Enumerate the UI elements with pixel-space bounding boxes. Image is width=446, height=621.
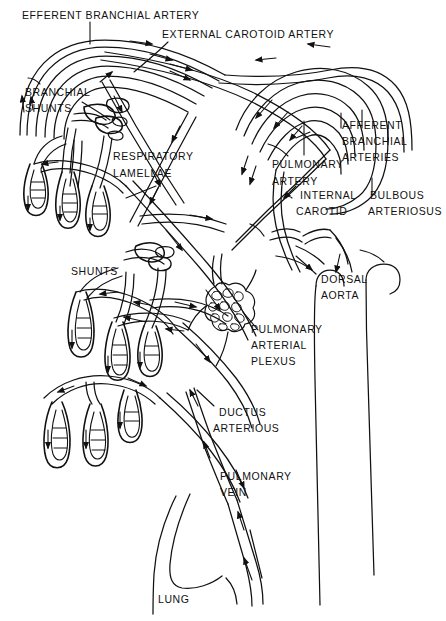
label-pulmonary-arterial-plexus-line2: ARTERIAL [251, 338, 307, 352]
respiratory-lamellae-set-1 [24, 160, 126, 236]
label-afferent-branchial-arteries-line1: AFFERENT [342, 118, 402, 132]
external-carotoid-flow-arrows [170, 44, 330, 70]
label-internal-carotid-line2: CAROTID [296, 204, 347, 218]
label-ductus-arteriosus-line2: ARTERIOUS [213, 421, 279, 435]
cross-link-vessels [114, 214, 228, 330]
label-bulbous-arteriosus-line2: ARTERIOSUS [368, 204, 442, 218]
label-lung: LUNG [158, 592, 190, 606]
label-afferent-branchial-arteries-line2: BRANCHIAL [342, 134, 408, 148]
label-dorsal-aorta-line1: DORSAL [321, 272, 368, 286]
label-pulmonary-artery-line2: ARTERY [272, 174, 318, 188]
anatomical-diagram-figure: EFFERENT BRANCHIAL ARTERY EXTERNAL CAROT… [0, 0, 446, 621]
label-branchial-shunts-line2: SHUNTS [25, 101, 72, 115]
label-pulmonary-vein-line1: PULMONARY [220, 469, 292, 483]
label-ductus-arteriosus-line1: DUCTUS [219, 405, 266, 419]
label-internal-carotid-line1: INTERNAL [300, 188, 357, 202]
label-respiratory-lamellae-line1: RESPIRATORY [113, 149, 194, 163]
dorsal-aorta-feed-arrows [360, 250, 384, 262]
dorsal-aorta [314, 264, 400, 605]
label-pulmonary-vein-line2: VEIN [220, 485, 247, 499]
label-bulbous-arteriosus-line1: BULBOUS [370, 188, 424, 202]
label-pulmonary-arterial-plexus-line3: PLEXUS [251, 354, 296, 368]
label-pulmonary-arterial-plexus-line1: PULMONARY [251, 322, 323, 336]
internal-carotid-vessel [250, 224, 331, 244]
label-pulmonary-artery-line1: PULMONARY [272, 157, 344, 171]
label-shunts: SHUNTS [71, 264, 118, 278]
respiratory-lamellae-set-3 [44, 376, 160, 468]
efferent-collector-trunks [126, 181, 260, 502]
ventral-outflow-arrows [296, 254, 340, 272]
label-external-carotoid-artery: EXTERNAL CAROTOID ARTERY [162, 27, 334, 41]
label-branchial-shunts-line1: BRANCHIAL [25, 85, 91, 99]
label-afferent-branchial-arteries-line3: ARTERIES [342, 150, 399, 164]
label-efferent-branchial-artery: EFFERENT BRANCHIAL ARTERY [22, 8, 199, 22]
lamellae-arrows-1 [28, 162, 90, 230]
label-respiratory-lamellae-line2: LAMELLAE [113, 166, 172, 180]
label-dorsal-aorta-line2: AORTA [321, 288, 359, 302]
internal-carotid-leader [286, 197, 292, 199]
